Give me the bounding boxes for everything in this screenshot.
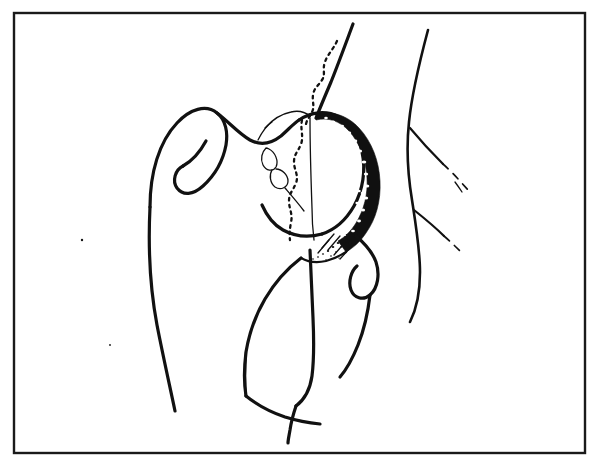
scan-speck-dot-2	[109, 344, 111, 346]
ischium-vertical-edge	[245, 352, 246, 396]
hip-joint-illustration	[0, 0, 598, 466]
scan-speck-dot	[81, 239, 83, 241]
figure-frame	[14, 13, 585, 453]
figure-root: Hip joint line drawing	[0, 0, 598, 466]
